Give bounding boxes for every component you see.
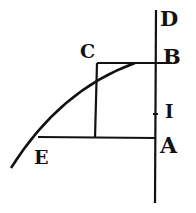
curve-EB [11,63,135,168]
label-E: E [34,148,48,167]
label-C: C [80,42,95,61]
segment-C-vertical [95,63,97,138]
label-D: D [160,8,178,29]
label-B: B [163,46,181,67]
segment-EA [38,137,156,138]
label-I: I [165,103,173,121]
axis-line-DA [155,10,156,203]
label-A: A [160,134,177,156]
